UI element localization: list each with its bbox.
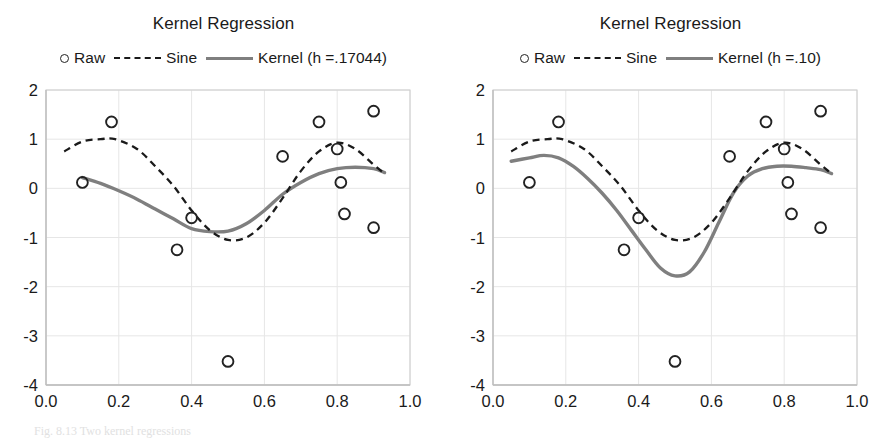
x-tick-label: 0.8: [326, 392, 349, 410]
figure-caption: Fig. 8.13 Two kernel regressions: [34, 424, 191, 439]
plot-area-right: 210-1-2-3-40.00.20.40.60.81.0: [447, 0, 894, 410]
raw-data-point: [223, 356, 234, 367]
y-tick-label: -3: [23, 327, 38, 345]
y-tick-label: -2: [470, 278, 485, 296]
raw-data-point: [524, 177, 535, 188]
x-tick-label: 0.2: [107, 392, 130, 410]
raw-data-point: [670, 356, 681, 367]
raw-data-point: [277, 151, 288, 162]
raw-data-point: [815, 222, 826, 233]
x-tick-label: 0.2: [554, 392, 577, 410]
raw-data-point: [619, 244, 630, 255]
x-tick-label: 0.4: [627, 392, 650, 410]
x-tick-label: 0.4: [180, 392, 203, 410]
raw-data-point: [761, 117, 772, 128]
y-tick-label: 2: [476, 81, 485, 99]
y-tick-label: 0: [29, 179, 38, 197]
chart-panel-left: Kernel Regression Raw Sine Kernel (h =.1…: [0, 0, 447, 410]
raw-data-point: [339, 209, 350, 220]
y-tick-label: -3: [470, 327, 485, 345]
kernel-curve: [511, 155, 831, 276]
x-tick-label: 0.0: [35, 392, 58, 410]
raw-data-point: [553, 117, 564, 128]
raw-data-point: [314, 117, 325, 128]
y-tick-label: -1: [23, 229, 38, 247]
y-tick-label: -1: [470, 229, 485, 247]
x-tick-label: 1.0: [399, 392, 422, 410]
kernel-regression-figure: Kernel Regression Raw Sine Kernel (h =.1…: [0, 0, 894, 441]
raw-data-point: [786, 209, 797, 220]
x-tick-label: 0.6: [253, 392, 276, 410]
y-tick-label: 2: [29, 81, 38, 99]
y-tick-label: 1: [29, 130, 38, 148]
raw-data-point: [815, 106, 826, 117]
raw-data-point: [724, 151, 735, 162]
plot-area-left: 210-1-2-3-40.00.20.40.60.81.0: [0, 0, 447, 410]
x-tick-label: 0.8: [773, 392, 796, 410]
x-tick-label: 0.0: [482, 392, 505, 410]
y-tick-label: -2: [23, 278, 38, 296]
raw-data-point: [368, 222, 379, 233]
raw-data-point: [106, 117, 117, 128]
y-tick-label: 1: [476, 130, 485, 148]
x-tick-label: 0.6: [700, 392, 723, 410]
x-tick-label: 1.0: [846, 392, 869, 410]
chart-panel-right: Kernel Regression Raw Sine Kernel (h =.1…: [447, 0, 894, 410]
raw-data-point: [368, 106, 379, 117]
raw-data-point: [172, 244, 183, 255]
y-tick-label: 0: [476, 179, 485, 197]
